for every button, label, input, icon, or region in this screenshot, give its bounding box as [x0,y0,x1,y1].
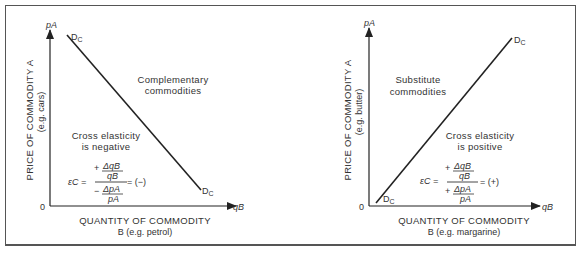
demand-curve [67,35,201,190]
y-axis-symbol: pA [45,20,57,30]
svg-text:+: + [445,163,450,173]
x-axis-symbol: qB [542,202,553,212]
x-axis-symbol: qB [233,202,244,212]
elasticity-label-1: Cross elasticity [72,130,141,141]
complementary-diagram: pA qB 0 DC DC PRICE OF COMMODITY A (e.g.… [24,20,244,237]
svg-text:ΔqB: ΔqB [102,161,120,171]
svg-text:pA: pA [107,194,119,204]
svg-text:qB: qB [107,171,118,181]
cross-elasticity-formula: εC = + ΔqB qB + ΔpA pA = (+) [420,161,499,204]
elasticity-label-2: is positive [457,141,502,152]
svg-text:pA: pA [459,194,471,204]
svg-text:qB: qB [459,171,470,181]
x-axis-subtitle: B (e.g. petrol) [118,227,173,237]
x-axis-title: QUANTITY OF COMMODITY [398,215,530,226]
svg-text:ΔqB: ΔqB [453,161,471,171]
curve-label-start: DC [383,194,395,205]
cross-elasticity-formula: εC = + ΔqB qB − ΔpA pA = (−) [68,161,146,204]
region-label-2: commodities [145,85,202,96]
elasticity-label-1: Cross elasticity [446,130,515,141]
x-axis-title: QUANTITY OF COMMODITY [79,215,211,226]
y-axis-subtitle: (e.g. butter) [354,89,364,136]
x-axis-subtitle: B (e.g. margarine) [428,227,501,237]
curve-label-end: DC [202,186,214,197]
region-label-1: Substitute [395,74,440,85]
diagram-canvas: pA qB 0 DC DC PRICE OF COMMODITY A (e.g.… [0,0,584,254]
svg-text:= (−): = (−) [127,177,146,187]
y-axis-subtitle: (e.g. cars) [36,92,46,133]
region-label-1: Complementary [138,74,209,85]
svg-text:−: − [94,186,99,196]
origin-label: 0 [359,202,364,212]
y-axis-title: PRICE OF COMMODITY A [342,59,353,180]
elasticity-label-2: is negative [82,141,131,152]
svg-text:+: + [94,163,99,173]
svg-text:εC =: εC = [420,176,438,186]
svg-text:+: + [445,186,450,196]
svg-text:= (+): = (+) [480,177,499,187]
curve-label-start: DC [71,32,83,43]
svg-text:εC =: εC = [68,177,86,187]
region-label-2: commodities [390,86,447,97]
substitute-diagram: pA qB 0 DC DC PRICE OF COMMODITY A (e.g.… [342,18,553,237]
svg-text:ΔpA: ΔpA [102,184,120,194]
y-axis-title: PRICE OF COMMODITY A [24,59,35,180]
y-axis-symbol: pA [363,18,375,28]
curve-label-end: DC [514,35,526,46]
svg-text:ΔpA: ΔpA [453,184,471,194]
origin-label: 0 [40,202,45,212]
